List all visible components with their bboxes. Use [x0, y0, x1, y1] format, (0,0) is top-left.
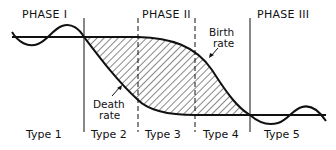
type-label-1: Type 1	[25, 128, 62, 141]
death-rate-label-line2: rate	[99, 109, 120, 121]
phase-label-2: PHASE II	[142, 8, 191, 21]
type-label-4: Type 4	[202, 128, 239, 141]
type-label-2: Type 2	[90, 128, 127, 141]
phase-label-3: PHASE III	[257, 8, 309, 21]
type-label-3: Type 3	[144, 128, 181, 141]
phase1-oscillation-curve	[12, 25, 84, 45]
type-label-5: Type 5	[263, 128, 300, 141]
birth-rate-label-line2: rate	[213, 37, 234, 49]
demographic-transition-diagram: PHASE I PHASE II PHASE III Birth rate De…	[0, 0, 336, 150]
phase-label-1: PHASE I	[22, 8, 67, 21]
